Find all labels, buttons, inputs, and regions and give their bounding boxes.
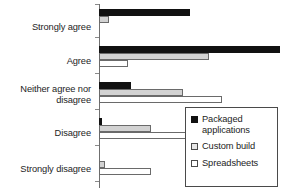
axis-tick [95,37,99,38]
bar-disagree-custom [99,125,151,132]
legend-item-packaged-applications: Packaged applications [191,114,273,135]
legend-item-spreadsheets: Spreadsheets [191,158,273,169]
legend-label-packaged-line1: Packaged [202,114,243,124]
category-label-strongly-disagree: Strongly disagree [0,164,91,175]
category-label-disagree: Disagree [0,128,91,139]
bar-agree-spreadsheet [99,60,128,67]
bar-strongly-disagree-custom [99,161,105,168]
legend-item-custom-build: Custom build [191,141,273,152]
bar-disagree-spreadsheet [99,132,186,139]
bar-agree-packaged [99,46,280,53]
axis-tick [95,109,99,110]
chart-legend: Packaged applications Custom build Sprea… [185,107,278,187]
axis-tick [95,4,99,5]
bar-disagree-packaged [99,118,102,125]
legend-label-spreadsheets: Spreadsheets [202,158,258,169]
legend-label-packaged: Packaged applications [202,114,250,135]
axis-tick [95,73,99,74]
category-label-agree: Agree [0,56,91,67]
bar-neither-packaged [99,82,131,89]
category-label-neither-line2: disagree [0,95,91,106]
bar-neither-spreadsheet [99,96,222,103]
bar-strongly-agree-custom [99,16,109,23]
legend-label-custom-build: Custom build [202,141,255,152]
legend-label-packaged-line2: applications [202,125,250,135]
category-label-neither-line1: Neither agree nor [0,84,91,95]
bar-strongly-disagree-spreadsheet [99,168,151,175]
white-square-icon [191,160,198,167]
bar-neither-custom [99,89,183,96]
axis-tick [95,145,99,146]
axis-tick [95,181,99,182]
bar-strongly-agree-packaged [99,9,190,16]
gray-square-icon [191,143,198,150]
y-axis-category-labels: Strongly agree Agree Neither agree nor d… [0,0,94,195]
category-label-strongly-agree: Strongly agree [0,22,91,33]
bar-chart: Strongly agree Agree Neither agree nor d… [0,0,281,195]
bar-agree-custom [99,53,209,60]
black-square-icon [191,116,198,123]
